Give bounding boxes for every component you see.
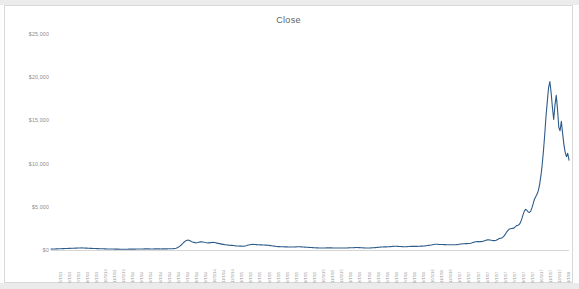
x-axis-line xyxy=(51,250,569,251)
x-axis-tick-label: 4/1/17 xyxy=(486,272,491,283)
x-axis-tick-label: 1/1/15 xyxy=(240,272,245,283)
x-axis-tick-label: 8/1/16 xyxy=(413,272,418,283)
x-axis-tick-label: 10/1/17 xyxy=(540,269,545,283)
x-axis-tick-label: 2/1/16 xyxy=(358,272,363,283)
chart-frame: Close $0$5,000$10,000$15,000$20,000$25,0… xyxy=(4,5,573,283)
close-price-path xyxy=(51,82,569,250)
y-axis-tick-label: $15,000 xyxy=(29,117,49,123)
x-axis-tick-label: 3/1/16 xyxy=(368,272,373,283)
y-axis-tick-label: $20,000 xyxy=(29,74,49,80)
x-axis-tick-label: 5/1/16 xyxy=(386,272,391,283)
x-axis-tick-label: 5/1/14 xyxy=(168,272,173,283)
x-axis-tick-label: 9/1/14 xyxy=(204,272,209,283)
close-price-line-series xyxy=(51,34,569,250)
y-axis-tick-label: $0 xyxy=(43,247,49,253)
x-axis-tick-label: 11/1/16 xyxy=(440,270,445,283)
y-axis-tick-labels: $0$5,000$10,000$15,000$20,000$25,000 xyxy=(11,34,49,250)
x-axis-tick-label: 6/1/16 xyxy=(395,272,400,283)
x-axis-tick-label: 8/1/17 xyxy=(522,272,527,283)
x-axis-tick-label: 1/1/16 xyxy=(349,272,354,283)
x-axis-tick-label: 7/1/17 xyxy=(513,272,518,283)
x-axis-tick-label: 4/1/16 xyxy=(377,272,382,283)
x-axis-tick-label: 9/1/16 xyxy=(422,272,427,283)
x-axis-tick-label: 12/1/16 xyxy=(449,269,454,283)
y-axis-tick-label: $25,000 xyxy=(29,31,49,37)
x-axis-tick-label: 2/1/14 xyxy=(140,272,145,283)
x-axis-tick-label: 7/1/15 xyxy=(295,272,300,283)
x-axis-tick-label: 12/1/15 xyxy=(340,269,345,283)
x-axis-tick-label: 4/1/15 xyxy=(268,272,273,283)
x-axis-tick-label: 6/1/13 xyxy=(68,272,73,283)
x-axis-tick-label: 1/1/17 xyxy=(458,272,463,283)
x-axis-tick-label: 1/1/14 xyxy=(131,272,136,283)
x-axis-tick-label: 6/1/15 xyxy=(286,272,291,283)
x-axis-tick-label: 10/1/16 xyxy=(431,269,436,283)
x-axis-tick-labels: 5/1/136/1/137/1/138/1/139/1/1310/1/1311/… xyxy=(51,252,569,286)
x-axis-tick-label: 2/1/15 xyxy=(249,272,254,283)
x-axis-tick-label: 3/1/17 xyxy=(477,272,482,283)
x-axis-tick-label: 12/1/13 xyxy=(122,269,127,283)
x-axis-tick-label: 9/1/15 xyxy=(313,272,318,283)
x-axis-tick-label: 9/1/17 xyxy=(531,272,536,283)
x-axis-tick-label: 5/1/13 xyxy=(59,272,64,283)
x-axis-tick-label: 6/1/14 xyxy=(177,272,182,283)
x-axis-tick-label: 8/1/13 xyxy=(86,272,91,283)
x-axis-tick-label: 5/1/15 xyxy=(277,272,282,283)
x-axis-tick-label: 10/1/15 xyxy=(322,269,327,283)
x-axis-tick-label: 11/1/17 xyxy=(549,270,554,283)
chart-screenshot: Close $0$5,000$10,000$15,000$20,000$25,0… xyxy=(0,0,579,289)
x-axis-tick-label: 6/1/17 xyxy=(504,272,509,283)
x-axis-tick-label: 5/1/17 xyxy=(495,272,500,283)
x-axis-tick-label: 3/1/15 xyxy=(258,272,263,283)
x-axis-tick-label: 7/1/14 xyxy=(186,272,191,283)
x-axis-tick-label: 11/1/15 xyxy=(331,270,336,283)
chart-title: Close xyxy=(5,15,572,25)
x-axis-tick-label: 8/1/14 xyxy=(195,272,200,283)
x-axis-tick-label: 1/1/18 xyxy=(567,272,572,283)
x-axis-tick-label: 12/1/17 xyxy=(558,269,563,283)
plot-area xyxy=(51,34,569,250)
x-axis-tick-label: 11/1/13 xyxy=(113,270,118,283)
x-axis-tick-label: 12/1/14 xyxy=(231,269,236,283)
x-axis-tick-label: 11/1/14 xyxy=(222,270,227,283)
x-axis-tick-label: 3/1/14 xyxy=(149,272,154,283)
x-axis-tick-label: 7/1/16 xyxy=(404,272,409,283)
x-axis-tick-label: 9/1/13 xyxy=(95,272,100,283)
y-axis-tick-label: $10,000 xyxy=(29,161,49,167)
x-axis-tick-label: 7/1/13 xyxy=(77,272,82,283)
x-axis-tick-label: 10/1/13 xyxy=(104,269,109,283)
x-axis-tick-label: 8/1/15 xyxy=(304,272,309,283)
x-axis-tick-label: 4/1/14 xyxy=(159,272,164,283)
x-axis-tick-label: 10/1/14 xyxy=(213,269,218,283)
x-axis-tick-label: 2/1/17 xyxy=(467,272,472,283)
y-axis-tick-label: $5,000 xyxy=(32,204,49,210)
